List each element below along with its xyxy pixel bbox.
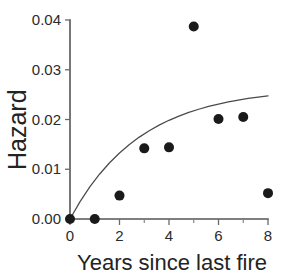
x-tick-label-0: 0: [66, 227, 74, 244]
hazard-scatter-chart: 0.000.010.020.030.04 02468 Hazard Years …: [0, 0, 284, 278]
chart-background: [0, 0, 284, 278]
data-point: [189, 21, 199, 31]
y-tick-label-2: 0.02: [32, 111, 61, 128]
x-tick-label-4: 4: [165, 227, 173, 244]
data-point: [65, 214, 75, 224]
data-point: [238, 112, 248, 122]
y-tick-label-1: 0.01: [32, 160, 61, 177]
y-tick-label-4: 0.04: [32, 11, 61, 28]
x-tick-label-8: 8: [264, 227, 272, 244]
x-tick-label-6: 6: [214, 227, 222, 244]
y-tick-label-0: 0.00: [32, 210, 61, 227]
x-tick-label-2: 2: [115, 227, 123, 244]
data-point: [139, 143, 149, 153]
y-tick-label-3: 0.03: [32, 61, 61, 78]
data-point: [214, 114, 224, 124]
x-axis-label: Years since last fire: [77, 250, 267, 275]
data-point: [115, 191, 125, 201]
y-axis-label: Hazard: [3, 89, 31, 170]
data-point: [263, 188, 273, 198]
data-point: [90, 214, 100, 224]
data-point: [164, 142, 174, 152]
